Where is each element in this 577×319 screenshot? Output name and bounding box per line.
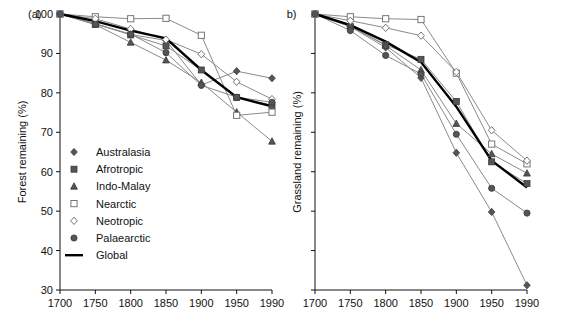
marker-neotropic (233, 78, 240, 85)
marker-neotropic (382, 24, 389, 31)
marker-nearctic (383, 16, 389, 22)
legend-item-palaearctic[interactable]: Palaearctic (71, 232, 151, 244)
marker-palaearctic (524, 210, 530, 216)
marker-neotropic (198, 51, 205, 58)
y-tick-label: 40 (41, 245, 53, 257)
marker-palaearctic (128, 31, 134, 37)
panel-a-ylabel: Forest remaining (%) (16, 101, 28, 204)
x-tick-label: 1850 (409, 297, 433, 309)
legend-label: Australasia (96, 146, 151, 158)
legend-label: Indo-Malay (96, 180, 151, 192)
series-line-indo-malay (60, 14, 272, 141)
marker-palaearctic (163, 50, 169, 56)
series-line-palaearctic (315, 14, 527, 213)
marker-palaearctic (312, 11, 318, 17)
y-tick-label: 90 (41, 47, 53, 59)
marker-nearctic (163, 15, 169, 21)
series-line-australasia (315, 14, 527, 285)
x-tick-label: 1700 (48, 297, 72, 309)
legend-item-global[interactable]: Global (65, 249, 128, 261)
marker-palaearctic (198, 82, 204, 88)
marker-afrotropic (489, 159, 495, 165)
x-tick-label: 1800 (373, 297, 397, 309)
x-tick-label: 1700 (303, 297, 327, 309)
marker-afrotropic (524, 181, 530, 187)
legend-swatch-open-square (71, 201, 77, 207)
marker-nearctic (128, 16, 134, 22)
marker-palaearctic (489, 185, 495, 191)
panel-b-plot: (b)1700175018001850190019501990Grassland… (287, 0, 577, 319)
marker-palaearctic (92, 21, 98, 27)
y-tick-label: 50 (41, 205, 53, 217)
y-axis-title: Grassland remaining (%) (291, 91, 303, 213)
legend-item-nearctic[interactable]: Nearctic (71, 198, 137, 210)
legend-swatch-open-diamond (71, 217, 78, 224)
legend-label: Neotropic (96, 215, 144, 227)
x-tick-label: 1990 (260, 297, 284, 309)
legend: AustralasiaAfrotropicIndo-MalayNearcticN… (65, 146, 151, 261)
marker-palaearctic (269, 99, 275, 105)
marker-nearctic (489, 141, 495, 147)
panel-b-tag: (b) (287, 8, 296, 20)
axis-lines (315, 14, 527, 290)
y-tick-label: 30 (41, 284, 53, 296)
x-tick-label: 1750 (83, 297, 107, 309)
marker-nearctic (198, 32, 204, 38)
x-tick-label: 1800 (118, 297, 142, 309)
x-tick-label: 1950 (479, 297, 503, 309)
legend-label: Nearctic (96, 198, 137, 210)
marker-palaearctic (57, 11, 63, 17)
marker-palaearctic (418, 71, 424, 77)
marker-palaearctic (453, 131, 459, 137)
legend-label: Palaearctic (96, 232, 151, 244)
marker-nearctic (234, 112, 240, 118)
marker-afrotropic (418, 56, 424, 62)
marker-afrotropic (453, 99, 459, 105)
marker-palaearctic (347, 27, 353, 33)
marker-indo-malay (163, 57, 170, 63)
marker-australasia (488, 208, 495, 215)
x-tick-label: 1950 (224, 297, 248, 309)
legend-item-indo-malay[interactable]: Indo-Malay (71, 180, 151, 192)
y-tick-label: 80 (41, 87, 53, 99)
panel-b-series (312, 10, 531, 289)
x-tick-label: 1900 (444, 297, 468, 309)
marker-palaearctic (383, 52, 389, 58)
legend-swatch-filled-triangle (71, 183, 78, 189)
y-tick-label: 100 (35, 8, 53, 20)
x-tick-label: 1850 (154, 297, 178, 309)
marker-afrotropic (198, 67, 204, 73)
panel-b: (b)1700175018001850190019501990Grassland… (287, 0, 577, 319)
panel-tag-text: (b) (287, 8, 296, 20)
figure-root: (a)3040506070809010017001750180018501900… (0, 0, 577, 319)
y-axis-title: Forest remaining (%) (16, 101, 28, 204)
panel-a-series (57, 10, 276, 144)
legend-swatch-filled-square (71, 166, 77, 172)
x-tick-label: 1990 (515, 297, 539, 309)
marker-australasia (453, 149, 460, 156)
panel-a-plot: (a)3040506070809010017001750180018501900… (0, 0, 290, 319)
panel-a-axes: 3040506070809010017001750180018501900195… (35, 8, 285, 309)
legend-item-neotropic[interactable]: Neotropic (71, 215, 144, 227)
legend-label: Afrotropic (96, 163, 144, 175)
marker-australasia (269, 75, 276, 82)
marker-nearctic (418, 16, 424, 22)
marker-indo-malay (524, 170, 531, 176)
legend-item-afrotropic[interactable]: Afrotropic (71, 163, 144, 175)
marker-australasia (233, 68, 240, 75)
marker-indo-malay (127, 39, 134, 45)
y-tick-label: 70 (41, 126, 53, 138)
legend-swatch-filled-circle (71, 235, 77, 241)
marker-palaearctic (234, 94, 240, 100)
x-tick-label: 1750 (338, 297, 362, 309)
marker-nearctic (269, 109, 275, 115)
legend-swatch-filled-diamond (71, 148, 78, 155)
legend-item-australasia[interactable]: Australasia (71, 146, 152, 158)
panel-a: (a)3040506070809010017001750180018501900… (0, 0, 290, 319)
legend-label: Global (96, 249, 128, 261)
x-tick-label: 1900 (189, 297, 213, 309)
marker-australasia (524, 282, 531, 289)
series-line-nearctic (60, 14, 272, 115)
panel-b-ylabel: Grassland remaining (%) (291, 91, 303, 213)
marker-indo-malay (269, 138, 276, 144)
